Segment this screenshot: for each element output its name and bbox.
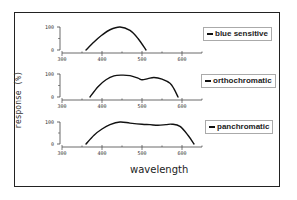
legend-label: panchromatic: [217, 122, 269, 131]
y-tick-label: 0: [51, 94, 54, 100]
y-tick-label: 0: [51, 141, 54, 147]
legend-label: orthochromatic: [213, 76, 272, 85]
x-tick-label: 600: [177, 150, 186, 156]
legend-panchromatic: panchromatic: [205, 120, 273, 134]
y-tick-label: 0: [51, 47, 54, 53]
series-curve-blue-sensitive: [86, 27, 146, 50]
x-tick-label: 500: [137, 56, 146, 62]
x-tick-label: 500: [137, 103, 146, 109]
x-tick-label: 600: [177, 103, 186, 109]
y-tick-label: 100: [45, 119, 54, 125]
x-tick-label: 400: [97, 150, 106, 156]
legend-line-icon: [209, 126, 215, 128]
legend-orthochromatic: orthochromatic: [201, 74, 276, 88]
x-tick-label: 400: [97, 103, 106, 109]
series-curve-panchromatic: [86, 122, 194, 144]
x-axis-label: wavelength: [130, 164, 188, 175]
legend-label: blue sensitive: [215, 29, 268, 38]
series-curve-orthochromatic: [90, 75, 178, 97]
y-tick-label: 100: [45, 71, 54, 77]
x-tick-label: 500: [137, 150, 146, 156]
y-tick-label: 100: [45, 24, 54, 30]
legend-line-icon: [207, 33, 213, 35]
y-axis-label: response (%): [14, 71, 23, 129]
x-tick-label: 400: [97, 56, 106, 62]
x-tick-label: 300: [57, 56, 66, 62]
legend-blue-sensitive: blue sensitive: [203, 27, 272, 41]
legend-line-icon: [205, 80, 211, 82]
x-tick-label: 300: [57, 103, 66, 109]
x-tick-label: 300: [57, 150, 66, 156]
x-tick-label: 600: [177, 56, 186, 62]
